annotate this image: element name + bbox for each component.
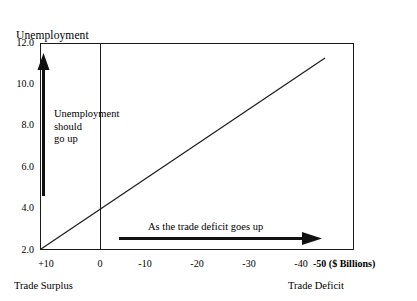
y-tick-label-8: 8.0: [0, 120, 34, 130]
annotation-vertical-line3: go up: [54, 133, 174, 146]
y-tick-label-12: 12.0: [0, 38, 34, 48]
y-tick-label-10: 10.0: [0, 79, 34, 89]
y-tick-label-6: 6.0: [0, 162, 34, 172]
annotation-as-trade-deficit-goes-up: As the trade deficit goes up: [148, 221, 263, 233]
axis-caption-trade-surplus: Trade Surplus: [14, 280, 73, 292]
x-tick-label-minus30: -30: [229, 258, 269, 269]
x-tick-label-minus20: -20: [177, 258, 217, 269]
y-axis-title-line1: Unemployment: [16, 29, 166, 43]
zero-axis-line: [100, 43, 101, 250]
axis-caption-trade-deficit: Trade Deficit: [288, 280, 344, 292]
annotation-vertical-line1: Unemployment: [54, 108, 174, 121]
annotation-unemployment-should-go-up: Unemployment should go up: [54, 108, 174, 146]
y-tick-label-2: 2.0: [0, 245, 34, 255]
annotation-vertical-line2: should: [54, 121, 174, 134]
chart-figure: Unemployment Rate % 12.0 10.0 8.0 6.0 4.…: [0, 0, 417, 301]
x-tick-label-plus10: +10: [26, 258, 66, 269]
x-tick-label-0: 0: [80, 258, 120, 269]
y-tick-label-4: 4.0: [0, 203, 34, 213]
x-tick-label-minus10: -10: [125, 258, 165, 269]
plot-area: [40, 43, 354, 250]
x-tick-label-minus50-unit: -50 ($ Billions): [313, 258, 417, 269]
